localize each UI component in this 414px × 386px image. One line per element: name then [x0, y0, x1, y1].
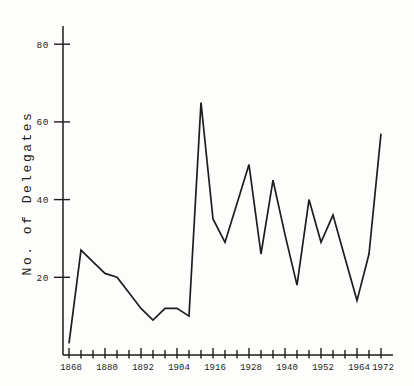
x-tick-label: 1952: [312, 363, 334, 373]
x-tick-label: 1868: [60, 363, 82, 373]
x-tick-label: 1928: [240, 363, 262, 373]
x-tick-label: 1940: [276, 363, 298, 373]
x-tick-label: 1916: [204, 363, 226, 373]
paper-background: [0, 0, 414, 386]
x-tick-label: 1972: [372, 363, 394, 373]
x-tick-label: 1964: [348, 363, 370, 373]
x-tick-label: 1892: [132, 363, 154, 373]
x-tick-label: 1880: [96, 363, 118, 373]
scanned-chart-page: 2040608018681880189219041916192819401952…: [0, 0, 414, 386]
y-tick-label: 80: [37, 40, 49, 51]
x-tick-label: 1904: [168, 363, 190, 373]
y-axis-title: No. of Delegates: [20, 111, 35, 276]
delegates-line-chart: 2040608018681880189219041916192819401952…: [0, 0, 414, 386]
y-tick-label: 20: [37, 273, 49, 284]
y-tick-label: 60: [37, 117, 49, 128]
y-tick-label: 40: [37, 195, 49, 206]
